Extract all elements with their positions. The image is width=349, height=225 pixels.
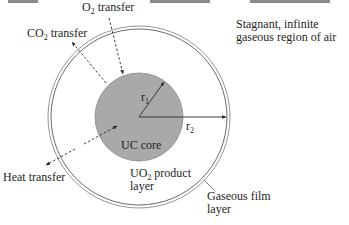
uo2-layer-line2: layer [130, 180, 191, 193]
co2-formula: CO [27, 26, 44, 40]
o2-transfer-text: transfer [95, 0, 135, 14]
o2-formula: O [82, 0, 91, 14]
r2-label: r2 [186, 120, 194, 133]
co2-transfer-label: CO2 transfer [27, 27, 87, 40]
heat-transfer-label: Heat transfer [3, 171, 65, 184]
stagnant-region-line2: gaseous region of air [236, 31, 336, 44]
uo2-product-layer-label: UO2 product layer [130, 167, 191, 193]
r2-subscript: 2 [190, 126, 194, 135]
o2-transfer-label: O2 transfer [82, 1, 134, 14]
stagnant-region-label: Stagnant, infinite gaseous region of air [236, 18, 336, 44]
co2-transfer-text: transfer [48, 26, 88, 40]
gaseous-film-label: Gaseous film layer [207, 190, 271, 216]
uo2-formula: UO [130, 166, 147, 180]
co2-transfer-arrow [72, 42, 106, 83]
r1-subscript: 1 [145, 97, 149, 106]
shrinking-core-diagram: O2 transfer CO2 transfer Stagnant, infin… [0, 0, 349, 225]
uc-core-label: UC core [121, 139, 161, 152]
r1-label: r1 [141, 91, 149, 104]
gaseous-film-line2: layer [207, 203, 271, 216]
uo2-product-text: product [151, 166, 191, 180]
o2-transfer-arrow [109, 18, 123, 74]
